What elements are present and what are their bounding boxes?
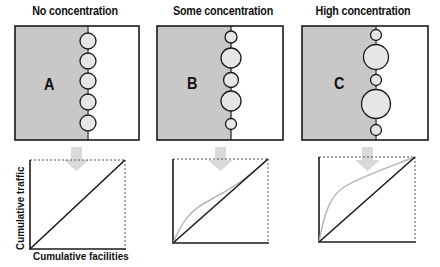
down-arrow-icon <box>355 147 380 171</box>
panel-b-network <box>157 26 283 140</box>
facility-circle <box>80 94 96 110</box>
facility-circle <box>364 45 389 70</box>
lorenz-chart-a <box>29 160 126 249</box>
panel-a-network <box>15 26 139 140</box>
facility-circle <box>371 125 382 136</box>
lorenz-chart-b <box>172 159 269 243</box>
facility-circle <box>371 30 382 41</box>
panel-c-letter: C <box>334 74 344 94</box>
facility-circle <box>224 73 239 88</box>
facility-circle <box>80 73 96 89</box>
facility-circle <box>80 115 96 131</box>
panel-c-network <box>302 26 428 140</box>
facility-circle <box>362 90 391 119</box>
panel-b-letter: B <box>187 74 197 94</box>
y-axis-label: Cumulative traffic <box>14 166 26 250</box>
facility-circle <box>221 91 241 111</box>
down-arrow-icon <box>64 147 89 171</box>
facility-circle <box>80 33 96 49</box>
facility-circle <box>80 53 96 69</box>
x-axis-label: Cumulative facilities <box>33 250 129 262</box>
facility-circle <box>221 48 241 68</box>
panel-a-letter: A <box>44 75 54 95</box>
facility-circle <box>225 31 237 43</box>
facility-circle <box>226 119 237 130</box>
facility-circle <box>371 75 382 86</box>
diagram-canvas <box>0 0 440 267</box>
